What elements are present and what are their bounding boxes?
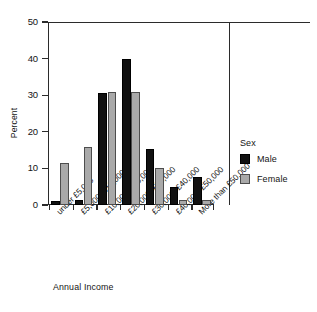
bar-female-0 [60,163,69,205]
x-tick-mark [191,205,192,210]
legend-swatch-male-icon [240,154,250,164]
bar-male-5 [170,187,179,205]
bar-male-2 [98,93,107,205]
bar-chart: Percent Annual Income 01020304050 under … [0,0,317,312]
y-tick-label: 50 [0,17,38,27]
x-tick-mark [168,205,169,210]
bar-female-4 [155,168,164,205]
bar-female-1 [84,147,93,205]
y-tick-mark [42,131,48,132]
y-tick-mark [42,168,48,169]
x-axis-title: Annual Income [53,282,114,292]
legend-label-female: Female [257,174,288,184]
bar-female-3 [131,92,140,205]
bar-female-6 [202,200,211,205]
x-tick-mark [49,205,50,210]
legend-title: Sex [240,138,288,148]
x-tick-mark [96,205,97,210]
y-tick-label: 0 [0,200,38,210]
y-tick-label: 30 [0,90,38,100]
legend-item-male[interactable]: Male [240,154,288,164]
x-tick-mark [120,205,121,210]
y-tick-label: 10 [0,163,38,173]
bar-male-0 [51,201,60,205]
y-tick-label: 40 [0,54,38,64]
bar-male-3 [122,59,131,205]
y-tick-mark [42,204,48,205]
y-tick-mark [42,58,48,59]
legend-label-male: Male [257,154,277,164]
chart-legend: Sex Male Female [240,138,288,194]
bar-female-2 [108,92,117,205]
y-axis-title: Percent [9,96,19,150]
legend-swatch-female-icon [240,174,250,184]
y-tick-mark [42,21,48,22]
x-tick-mark [144,205,145,210]
bar-male-6 [193,177,202,205]
x-tick-mark [73,205,74,210]
y-tick-mark [42,95,48,96]
y-tick-label: 20 [0,127,38,137]
bar-male-1 [75,200,84,205]
bar-male-4 [146,149,155,205]
bar-female-5 [179,200,188,205]
legend-item-female[interactable]: Female [240,174,288,184]
